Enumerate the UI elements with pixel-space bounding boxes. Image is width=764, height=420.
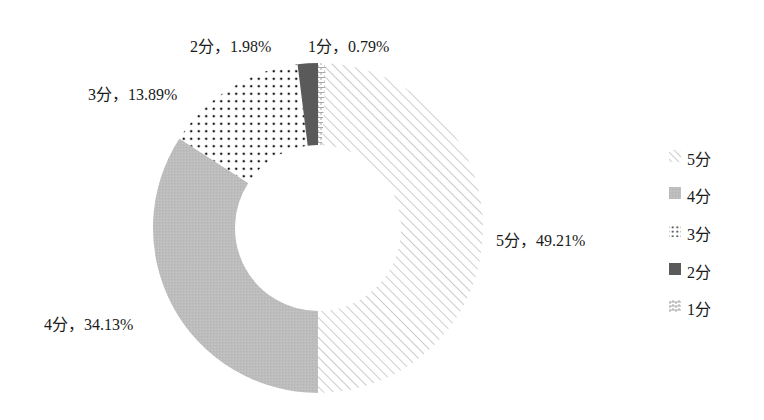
legend-label-2: 2分: [687, 259, 711, 283]
slice-4: [153, 138, 318, 393]
donut-slices: [153, 63, 483, 393]
legend-label-1: 1分: [687, 296, 711, 320]
data-label-5: 5分，49.21%: [496, 232, 585, 250]
slice-5: [318, 63, 483, 393]
legend-swatch-4: [669, 187, 681, 199]
legend-label-3: 3分: [687, 221, 711, 245]
legend-label-4: 4分: [687, 183, 711, 207]
data-label-3: 3分，13.89%: [88, 86, 177, 104]
legend-swatch-3: [669, 225, 681, 237]
data-label-4: 4分，34.13%: [44, 316, 133, 334]
donut-chart: [0, 0, 764, 420]
data-label-1: 1分，0.79%: [308, 38, 389, 56]
legend-label-5: 5分: [687, 146, 711, 170]
legend-swatch-5: [669, 150, 681, 162]
legend-swatch-1: [669, 300, 681, 312]
legend-swatch-2: [669, 263, 681, 275]
data-label-2: 2分，1.98%: [190, 38, 271, 56]
